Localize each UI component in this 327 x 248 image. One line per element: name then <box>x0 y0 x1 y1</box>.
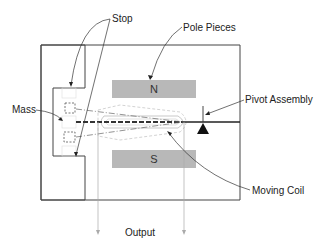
pole-pieces-label: Pole Pieces <box>183 22 236 33</box>
pivot-triangle <box>197 123 209 134</box>
mass-label: Mass <box>12 104 36 115</box>
output-label: Output <box>125 227 155 238</box>
mass-lower <box>64 132 75 142</box>
pivot-assembly-label: Pivot Assembly <box>245 94 313 105</box>
stop-label: Stop <box>112 13 133 24</box>
moving-coil-label: Moving Coil <box>252 185 304 196</box>
mass-upper <box>65 103 75 113</box>
north-pole-label: N <box>150 83 158 95</box>
south-pole-label: S <box>150 153 157 165</box>
diagram-canvas: N S Stop Pole Pieces Mass Pivot Assembly… <box>0 0 327 248</box>
